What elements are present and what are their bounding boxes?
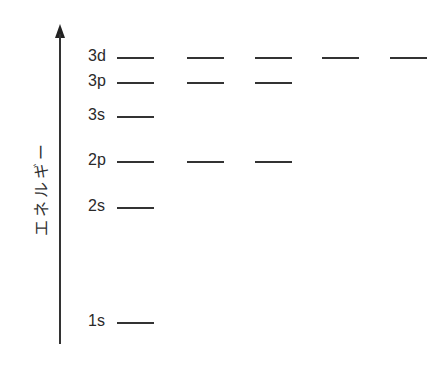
orbital-line bbox=[117, 322, 154, 324]
orbital-line bbox=[117, 207, 154, 209]
orbital-line bbox=[117, 82, 154, 84]
orbital-line bbox=[187, 57, 224, 59]
level-label: 3s bbox=[88, 107, 116, 123]
level-label: 3p bbox=[88, 73, 116, 89]
orbital-line bbox=[117, 116, 154, 118]
orbital-line bbox=[117, 161, 154, 163]
orbital-line bbox=[255, 82, 292, 84]
orbital-line bbox=[390, 57, 427, 59]
orbital-line bbox=[255, 161, 292, 163]
energy-axis-label: エネルギー bbox=[28, 141, 52, 236]
orbital-line bbox=[255, 57, 292, 59]
orbital-line bbox=[187, 82, 224, 84]
level-label: 3d bbox=[88, 48, 116, 64]
level-label: 2p bbox=[88, 152, 116, 168]
level-label: 1s bbox=[88, 313, 116, 329]
level-label: 2s bbox=[88, 198, 116, 214]
orbital-line bbox=[117, 57, 154, 59]
orbital-line bbox=[322, 57, 359, 59]
orbital-line bbox=[187, 161, 224, 163]
energy-axis bbox=[59, 34, 61, 344]
